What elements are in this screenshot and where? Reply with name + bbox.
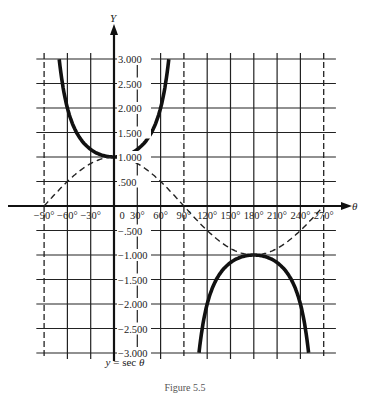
x-tick-label: 60° [153,210,168,221]
y-tick-label: 2.500 [118,79,142,90]
y-tick-label: 3.000 [118,54,142,65]
formula-var-theta: θ [139,356,144,368]
y-tick-label: 1.500 [118,128,142,139]
x-tick-label: −60° [57,210,78,221]
y-tick-label: −.500 [118,226,142,237]
x-tick-label: 120° [197,210,217,221]
y-tick-label: 1.000 [118,152,142,163]
y-axis-label: Y [110,12,118,24]
formula-eq: = sec [110,356,139,368]
y-tick-label: 2.000 [118,103,142,114]
x-axis-arrow-icon [341,202,352,210]
y-tick-label: −2.000 [118,299,148,310]
x-tick-label: 270° [314,210,334,221]
y-tick-label: −1.500 [118,275,148,286]
y-tick-label: −2.500 [118,324,148,335]
x-tick-label: 90° [177,210,192,221]
x-tick-label: −90° [34,210,55,221]
x-tick-label: 0 [119,210,124,221]
y-tick-label: −1.000 [118,250,148,261]
figure-caption: Figure 5.5 [0,382,370,393]
y-tick-label: .500 [118,177,136,188]
x-axis-label: θ [352,200,358,212]
secant-chart: −90°−60°−30°030°60°90°120°150°180°210°24… [0,0,370,397]
chart-formula-caption: y = sec θ [0,356,310,368]
x-tick-label: 180° [244,210,264,221]
y-axis-arrow-icon [110,24,118,35]
x-tick-label: 30° [130,210,145,221]
x-tick-label: 210° [267,210,287,221]
x-tick-label: −30° [80,210,101,221]
x-tick-label: 150° [221,210,241,221]
x-tick-label: 240° [290,210,310,221]
